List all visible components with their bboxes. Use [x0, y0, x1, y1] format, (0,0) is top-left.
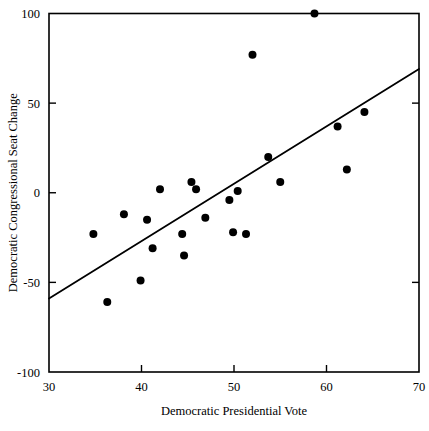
data-point-18 [276, 178, 284, 186]
x-tick-label-3: 60 [320, 380, 333, 394]
y-tick-label-0: -100 [17, 366, 40, 380]
data-point-8 [180, 251, 188, 259]
data-point-20 [334, 122, 342, 130]
plot-canvas: 3040506070-100-50050100 Democratic Presi… [0, 0, 429, 431]
x-tick-label-2: 50 [228, 380, 241, 394]
x-tick-label-0: 30 [43, 380, 56, 394]
data-point-1 [103, 298, 111, 306]
data-point-12 [225, 196, 233, 204]
y-tick-label-3: 50 [28, 97, 41, 111]
data-point-19 [310, 10, 318, 18]
y-tick-label-4: 100 [21, 7, 40, 21]
data-point-0 [89, 230, 97, 238]
plot-axes [49, 14, 419, 373]
data-point-3 [137, 277, 145, 285]
data-point-16 [249, 51, 257, 59]
tick-labels-group: 3040506070-100-50050100 [17, 7, 425, 394]
x-tick-label-1: 40 [135, 380, 148, 394]
data-point-13 [229, 228, 237, 236]
data-point-10 [192, 185, 200, 193]
data-point-2 [120, 210, 128, 218]
data-point-21 [343, 165, 351, 173]
regression-line [49, 69, 419, 298]
regression-line-path [49, 69, 419, 298]
y-tick-label-1: -50 [23, 276, 40, 290]
x-tick-label-4: 70 [413, 380, 426, 394]
data-point-9 [187, 178, 195, 186]
data-point-6 [156, 185, 164, 193]
data-point-15 [242, 230, 250, 238]
data-point-5 [149, 244, 157, 252]
data-point-22 [360, 108, 368, 116]
data-point-7 [178, 230, 186, 238]
axis-frame [49, 14, 419, 373]
y-axis-title: Democratic Congressional Seat Change [6, 93, 20, 292]
data-point-11 [201, 214, 209, 222]
data-point-4 [143, 216, 151, 224]
data-point-17 [264, 153, 272, 161]
data-points-group [89, 10, 368, 307]
x-axis-title: Democratic Presidential Vote [161, 404, 307, 418]
scatter-plot-figure: 3040506070-100-50050100 Democratic Presi… [0, 0, 429, 431]
y-tick-label-2: 0 [34, 186, 40, 200]
data-point-14 [234, 187, 242, 195]
axis-titles-group: Democratic Presidential VoteDemocratic C… [6, 93, 307, 418]
